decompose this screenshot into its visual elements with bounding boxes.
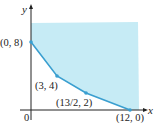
vertex-label: (0, 8) bbox=[0, 37, 23, 49]
y-axis-label: y bbox=[21, 3, 27, 15]
y-axis-arrow-icon bbox=[29, 4, 33, 9]
feasible-region-diagram: y x 0 (0, 8) (3, 4) (13/2, 2) (12, 0) bbox=[0, 0, 158, 131]
vertex-point bbox=[29, 40, 33, 44]
vertex-label: (13/2, 2) bbox=[56, 97, 93, 109]
origin-label: 0 bbox=[24, 112, 29, 123]
vertex-point bbox=[55, 74, 59, 78]
vertex-label: (12, 0) bbox=[116, 112, 144, 124]
x-axis-label: x bbox=[147, 104, 153, 116]
vertex-point bbox=[84, 91, 88, 95]
vertex-label: (3, 4) bbox=[35, 80, 58, 92]
